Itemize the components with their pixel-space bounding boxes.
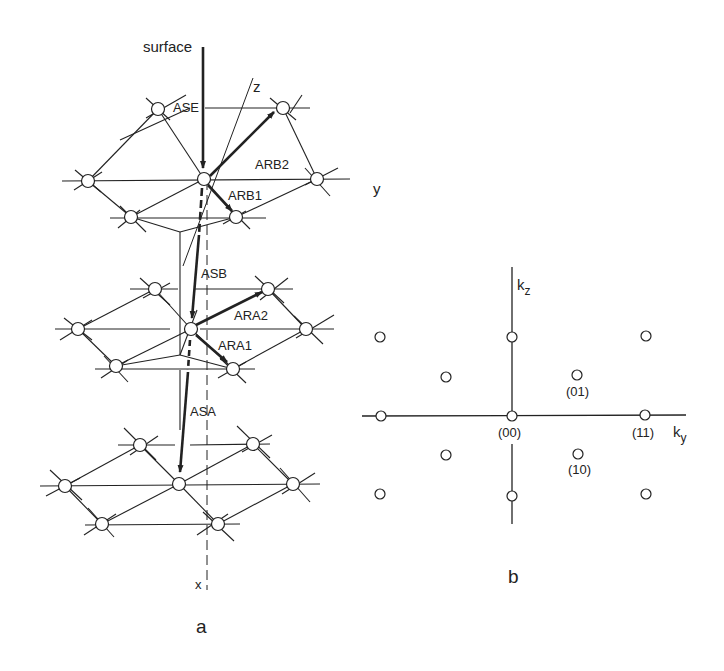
x-axis-label: x <box>195 577 202 592</box>
top-layer-net <box>62 95 350 355</box>
ASB-dashed-arrow <box>199 188 202 235</box>
ARB2-label: ARB2 <box>255 157 289 172</box>
z-axis-label: z <box>253 78 261 95</box>
ASE-label: ASE <box>173 100 199 115</box>
kz-axis-label: kz <box>517 276 531 298</box>
panel-a-labels: surface z y x ASE ARB2 ARB1 ASB ARA2 ARA… <box>143 38 381 637</box>
panel-b-labels: kz ky (00) (01) (11) (10) b <box>498 276 687 587</box>
ASB-label: ASB <box>201 266 227 281</box>
ARB1-label: ARB1 <box>228 188 262 203</box>
ARA1-label: ARA1 <box>218 338 252 353</box>
ASB-arrow <box>192 235 199 318</box>
ASA-label: ASA <box>190 404 216 419</box>
ky-axis-label: ky <box>673 423 687 445</box>
spot-label-11: (11) <box>632 425 654 440</box>
surface-label: surface <box>143 38 192 55</box>
spot-label-10: (10) <box>568 462 591 477</box>
spot-label-01: (01) <box>566 384 589 399</box>
leed-lattice-figure: surface z y x ASE ARB2 ARB1 ASB ARA2 ARA… <box>0 0 724 671</box>
ASA-arrow <box>180 372 188 472</box>
ky-axis <box>362 415 686 416</box>
spot-label-00: (00) <box>498 425 521 440</box>
ASA-dashed-arrow <box>188 340 190 370</box>
panel-b-caption: b <box>508 566 519 587</box>
panel-b-reciprocal-lattice <box>362 267 686 524</box>
ARA2-label: ARA2 <box>234 308 268 323</box>
y-axis-label: y <box>373 180 381 197</box>
panel-a-caption: a <box>196 616 207 637</box>
panel-a-real-space-lattice <box>40 47 350 590</box>
